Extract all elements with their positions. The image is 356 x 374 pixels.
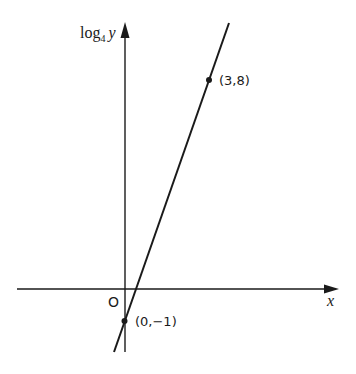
y-axis-label: log4y (80, 24, 116, 44)
origin-label: O (108, 294, 119, 310)
point-label-0-neg1: (0,−1) (135, 314, 177, 329)
x-axis-label: x (326, 292, 334, 309)
plotted-line (114, 23, 229, 352)
point-0-neg1 (122, 318, 128, 324)
y-axis (121, 22, 130, 352)
x-axis (17, 285, 339, 294)
point-label-3-8: (3,8) (219, 73, 250, 88)
point-3-8 (206, 77, 212, 83)
graph-canvas: log4y x O (3,8) (0,−1) (0, 0, 356, 374)
y-axis-arrow-icon (121, 22, 130, 38)
